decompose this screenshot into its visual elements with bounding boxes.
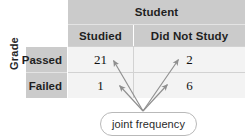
- arrow-to-cell-failed-studied: [120, 86, 144, 112]
- arrow-to-cell-passed-studied: [114, 61, 144, 112]
- arrow-to-cell-passed-did-not-study: [143, 60, 179, 112]
- callout-pill-joint-frequency: joint frequency: [100, 112, 197, 136]
- callout-label: joint frequency: [112, 118, 185, 130]
- figure-container: ies re. y Grade Student Studied Did Not …: [0, 0, 245, 139]
- arrow-to-cell-failed-did-not-study: [143, 85, 168, 112]
